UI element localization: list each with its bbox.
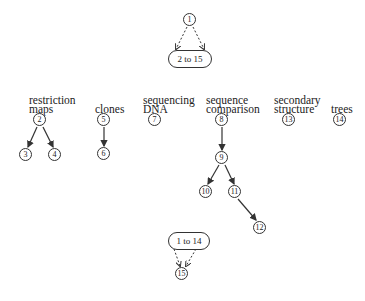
- node-9: 9: [215, 151, 228, 164]
- edge-1-to-group: [193, 27, 204, 49]
- node-1: 1: [183, 13, 196, 26]
- edge-11-12: [238, 199, 256, 220]
- edge-9-11: [225, 165, 234, 184]
- node-12: 12: [253, 221, 266, 234]
- node-8: 8: [215, 113, 228, 126]
- label-clones: clones: [95, 105, 124, 114]
- node-14: 14: [333, 113, 346, 126]
- node-2: 2: [33, 113, 46, 126]
- node-4: 4: [48, 148, 61, 161]
- group-node-2-to-15: 2 to 15: [168, 50, 212, 68]
- node-3: 3: [19, 148, 32, 161]
- node-10: 10: [199, 185, 212, 198]
- label-sequence-comparison: sequence comparison: [206, 96, 260, 114]
- node-15: 15: [175, 267, 188, 280]
- edge-group-to-15: [186, 249, 196, 266]
- node-11: 11: [228, 185, 241, 198]
- node-13: 13: [282, 113, 295, 126]
- edge-1-to-group: [176, 27, 187, 49]
- node-5: 5: [97, 113, 110, 126]
- edge-2-3: [28, 127, 37, 147]
- edge-2-4: [43, 127, 53, 147]
- node-7: 7: [148, 113, 161, 126]
- edge-group-to-15: [174, 249, 180, 266]
- edge-9-10: [208, 165, 219, 184]
- group-node-1-to-14: 1 to 14: [168, 232, 210, 250]
- label-sequencing-dna: sequencing DNA: [143, 96, 195, 114]
- label-restriction-maps: restriction maps: [29, 96, 76, 114]
- node-6: 6: [97, 147, 110, 160]
- label-secondary-structure: secondary structure: [274, 96, 321, 114]
